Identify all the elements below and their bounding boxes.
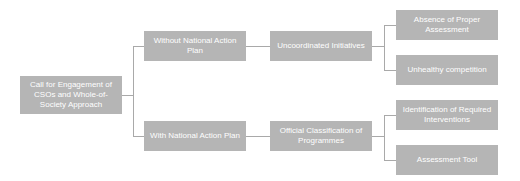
leaf-node-label: Absence of Proper Assessment — [399, 15, 495, 35]
root-node-label: Call for Engagement of CSOs and Whole-of… — [23, 80, 119, 110]
branch-node-label: Without National Action Plan — [147, 36, 243, 56]
connector — [384, 115, 396, 116]
connector — [384, 160, 396, 161]
leaf-node-label: Unhealthy competition — [407, 65, 486, 75]
branch-node-with-nap: With National Action Plan — [144, 121, 246, 151]
connector — [133, 46, 144, 47]
connector — [372, 136, 384, 137]
leaf-node-label: Assessment Tool — [417, 155, 477, 165]
leaf-node-unhealthy-competition: Unhealthy competition — [396, 55, 498, 85]
leaf-node-absence-assessment: Absence of Proper Assessment — [396, 10, 498, 40]
root-node: Call for Engagement of CSOs and Whole-of… — [20, 76, 122, 114]
branch-node-without-nap: Without National Action Plan — [144, 31, 246, 61]
leaf-node-label: Identification of Required Interventions — [399, 105, 495, 125]
connector — [246, 46, 270, 47]
connector — [384, 25, 385, 71]
connector — [384, 70, 396, 71]
child-node-label: Uncoordinated Initiatives — [277, 41, 365, 51]
leaf-node-identification-interventions: Identification of Required Interventions — [396, 100, 498, 130]
connector — [133, 46, 134, 137]
connector — [384, 115, 385, 161]
branch-node-label: With National Action Plan — [150, 131, 240, 141]
child-node-uncoordinated: Uncoordinated Initiatives — [270, 31, 372, 61]
connector — [133, 136, 144, 137]
connector — [384, 25, 396, 26]
child-node-label: Official Classification of Programmes — [273, 126, 369, 146]
connector — [246, 136, 270, 137]
connector — [372, 46, 384, 47]
connector — [122, 95, 133, 96]
child-node-official-classification: Official Classification of Programmes — [270, 121, 372, 151]
leaf-node-assessment-tool: Assessment Tool — [396, 145, 498, 175]
